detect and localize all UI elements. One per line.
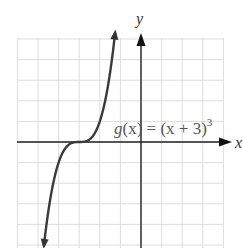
y-axis-label: y <box>134 10 144 28</box>
curve-arrow-down-icon <box>41 239 49 248</box>
equation-label: g(x) = (x + 3)3 <box>114 116 213 138</box>
equation-exponent: 3 <box>207 116 213 128</box>
function-graph: x y g(x) = (x + 3)3 <box>0 0 243 248</box>
curve-arrow-up-icon <box>110 30 118 40</box>
x-axis-arrow-icon <box>219 138 232 147</box>
equation-body: (x) = (x + 3) <box>123 119 207 138</box>
x-axis-label: x <box>234 134 242 151</box>
